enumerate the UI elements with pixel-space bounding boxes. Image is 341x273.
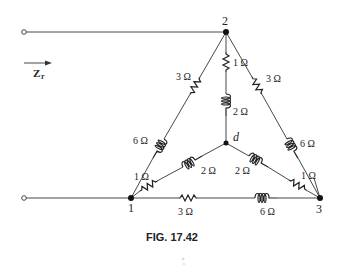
delta-left-inductor-label: 6 Ω [133, 135, 148, 146]
delta-right-resistor-label: 3 Ω [266, 73, 281, 84]
delta-bottom-resistor-label: 3 Ω [178, 206, 193, 217]
wye-top-resistor-label: 1 Ω [233, 57, 248, 68]
node-d-label: d [233, 130, 240, 144]
wye-top-inductor [222, 94, 231, 116]
delta-right-resistor [249, 76, 264, 96]
input-bottom-wire [22, 196, 131, 201]
delta-bottom-inductor [255, 194, 277, 203]
delta-bottom-resistor [178, 195, 198, 201]
input-top-wire [22, 30, 226, 35]
bottom-terminal [22, 196, 27, 201]
wye-left-resistor-label: 1 Ω [134, 171, 149, 182]
node-d-dot [224, 141, 229, 146]
node-1-label: 1 [128, 201, 134, 215]
node-3-label: 3 [316, 202, 322, 216]
top-terminal [22, 30, 27, 35]
node-2-dot [223, 29, 229, 35]
delta-bottom-leg [131, 194, 320, 203]
node-3-dot [317, 195, 323, 201]
delta-left-resistor-label: 3 Ω [176, 71, 191, 82]
wye-right-inductor-label: 2 Ω [235, 165, 250, 176]
wye-top-resistor [223, 52, 229, 72]
zt-label: ZT [33, 67, 45, 81]
wye-left-inductor-label: 2 Ω [201, 165, 216, 176]
wye-top-leg [222, 32, 231, 143]
circuit-diagram: ZT 3 Ω 6 Ω 3 Ω 6 Ω 3 Ω 6 Ω 1 Ω 2 Ω [0, 0, 341, 273]
node-2-label: 2 [222, 14, 228, 28]
wye-top-inductor-label: 2 Ω [233, 106, 248, 117]
figure-caption: FIG. 17.42 [146, 231, 198, 243]
scan-artifact [182, 258, 185, 265]
delta-bottom-inductor-label: 6 Ω [260, 206, 275, 217]
delta-right-inductor [283, 137, 302, 161]
delta-right-inductor-label: 6 Ω [300, 138, 315, 149]
delta-left-inductor [149, 137, 168, 161]
wye-right-resistor-label: 1 Ω [301, 170, 316, 181]
wye-right-inductor [247, 152, 271, 171]
zt-arrow-icon [24, 61, 52, 66]
